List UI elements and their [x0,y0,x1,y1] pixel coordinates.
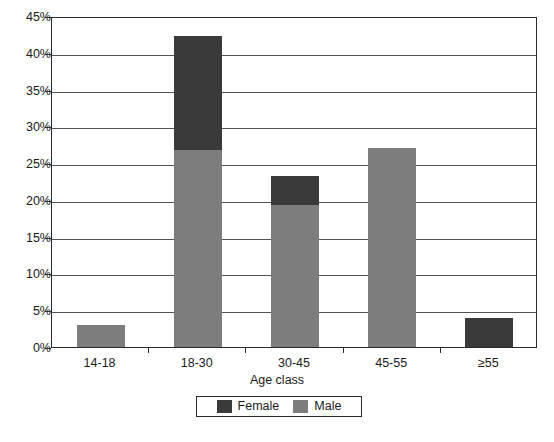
legend-item-male: Male [293,400,341,413]
x-tick-label: 30-45 [245,356,342,370]
bar-segment-female[interactable] [271,176,319,205]
x-tick-label: ≥55 [440,356,537,370]
legend-swatch-female [217,400,232,413]
plot-area [51,17,537,348]
bar-stack-55[interactable] [465,318,513,347]
legend-item-female: Female [217,400,280,413]
bar-group [52,18,149,347]
x-tick-label: 14-18 [51,356,148,370]
bar-stack-1418[interactable] [77,325,125,347]
legend-swatch-male [293,400,308,413]
bar-segment-female[interactable] [465,318,513,347]
chart-legend: Female Male [196,396,362,417]
legend-label-male: Male [314,400,341,413]
bar-segment-female[interactable] [174,36,222,150]
y-tick-mark [45,348,51,349]
x-tick-mark [148,348,149,353]
bar-stack-1830[interactable] [174,36,222,347]
bar-segment-male[interactable] [368,148,416,347]
bar-group [246,18,343,347]
x-tick-mark [440,348,441,353]
x-tick-mark [343,348,344,353]
figure-caption [2,430,422,440]
bar-stack-4555[interactable] [368,148,416,347]
bar-group [149,18,246,347]
bar-stack-3045[interactable] [271,176,319,347]
bar-group [441,18,538,347]
bar-segment-male[interactable] [174,150,222,347]
stacked-bar-chart: 0%5%10%15%20%25%30%35%40%45% 14-1818-303… [0,0,554,442]
x-tick-label: 45-55 [343,356,440,370]
x-tick-mark [245,348,246,353]
bar-segment-male[interactable] [271,205,319,347]
legend-label-female: Female [238,400,280,413]
x-axis-title: Age class [0,373,554,387]
x-tick-label: 18-30 [148,356,245,370]
bar-segment-male[interactable] [77,325,125,347]
bar-group [344,18,441,347]
bars-layer [52,18,536,347]
